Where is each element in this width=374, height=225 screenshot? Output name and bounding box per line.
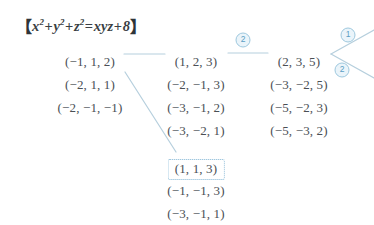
solution-triple: (−3, −1, 1): [167, 206, 224, 222]
solution-triple: (−5, −3, 2): [270, 123, 327, 139]
solution-triple: (2, 3, 5): [278, 54, 321, 70]
diagram-canvas: 【x2+y2+z2=xyz+8】 (−1, 1, 2)(−2, 1, 1)(−2…: [0, 0, 374, 225]
solution-triple: (1, 2, 3): [175, 54, 218, 70]
solution-triple: (−3, −2, 1): [167, 123, 224, 139]
solution-triple: (−3, −1, 2): [167, 100, 224, 116]
equation-body: x2+y2+z2=xyz+8: [32, 18, 130, 34]
solution-triple: (−1, 1, 2): [65, 54, 115, 70]
equation-open-bracket: 【: [16, 18, 32, 35]
solution-triple: (−3, −2, 5): [270, 77, 327, 93]
equation-header: 【x2+y2+z2=xyz+8】: [16, 13, 146, 37]
equation-close-bracket: 】: [130, 18, 146, 35]
step-badge-2-top: 2: [236, 33, 251, 48]
highlighted-solution-triple: (1, 1, 3): [168, 159, 225, 180]
solution-triple: (−2, 1, 1): [65, 77, 115, 93]
step-badge-2-right: 2: [335, 63, 350, 78]
solution-triple: (−2, −1, −1): [58, 100, 123, 116]
solution-triple: (−2, −1, 3): [167, 77, 224, 93]
solution-triple: (−5, −2, 3): [270, 100, 327, 116]
step-badge-1-right: 1: [341, 28, 356, 43]
solution-triple: (−1, −1, 3): [167, 183, 224, 199]
